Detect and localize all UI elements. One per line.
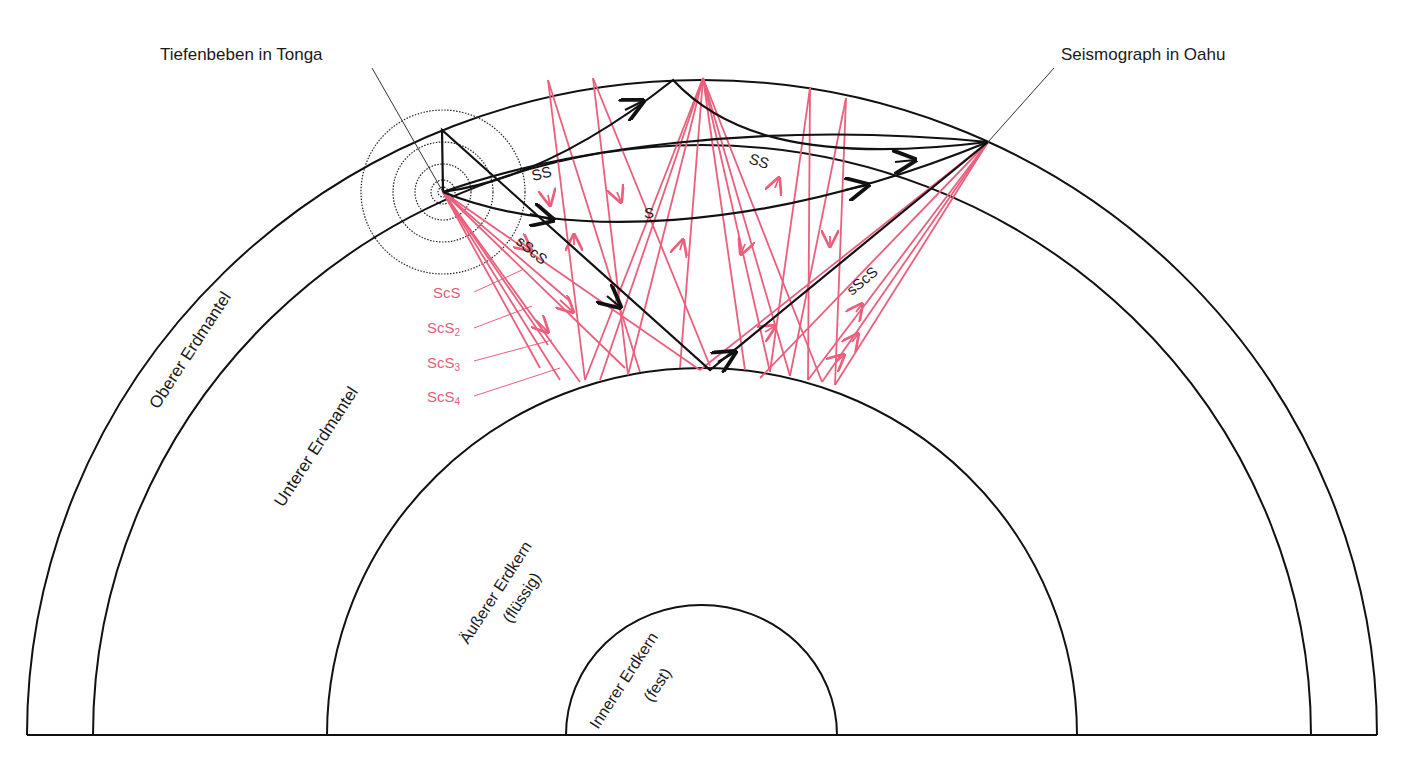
black-rays	[442, 80, 988, 370]
phase-sscs-label-2: sScS	[843, 263, 881, 299]
earth-shells	[27, 80, 1377, 735]
phase-ss-label-2: SS	[747, 150, 771, 172]
upper-lower-mantle-boundary	[93, 145, 1311, 735]
phase-ss-label-1: SS	[530, 163, 554, 184]
phase-s-label: S	[644, 204, 654, 221]
inner-core-state-label: (fest)	[640, 665, 674, 705]
scs-rays-red	[443, 78, 988, 385]
surface-boundary	[27, 80, 1377, 735]
source-leader	[372, 68, 443, 192]
station-label: Seismograph in Oahu	[1061, 45, 1225, 64]
core-mantle-boundary	[327, 368, 1077, 735]
source-label: Tiefenbeben in Tonga	[160, 45, 323, 64]
earth-cross-section-diagram: Tiefenbeben in Tonga Seismograph in Oahu…	[0, 0, 1409, 760]
phase-scs2-label: ScS2	[427, 319, 461, 338]
lower-mantle-label: Unterer Erdmantel	[270, 383, 362, 510]
phase-scs4-label: ScS4	[427, 388, 461, 407]
phase-scs3-label: ScS3	[427, 354, 461, 373]
station-leader	[988, 68, 1054, 142]
phase-scs-label: ScS	[433, 284, 461, 301]
